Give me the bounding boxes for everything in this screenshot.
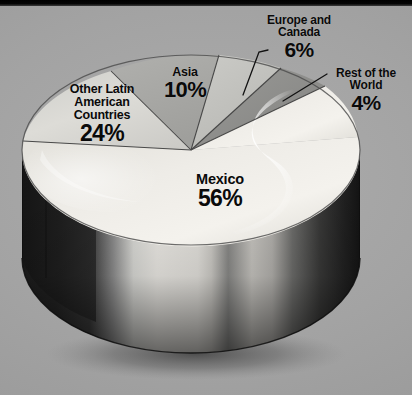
slice-label-other-latin-american-countries: Other Latin American Countries 24% — [47, 83, 157, 145]
slice-label-europe-percent: 6% — [249, 39, 349, 61]
top-black-band — [0, 0, 412, 6]
slice-label-europe-and-canada: Europe and Canada 6% — [249, 14, 349, 60]
slice-label-mexico-percent: 56% — [165, 187, 275, 211]
slice-label-other-latin-line1: Other Latin — [47, 83, 157, 96]
slice-label-asia-percent: 10% — [150, 79, 220, 102]
slice-label-other-latin-percent: 24% — [47, 122, 157, 146]
slice-label-other-latin-line2: American — [47, 96, 157, 109]
slice-label-rest-of-world-percent: 4% — [320, 92, 412, 114]
slice-label-rest-of-world-line2: World — [320, 79, 412, 91]
slice-label-asia: Asia 10% — [150, 66, 220, 102]
slice-label-mexico: Mexico 56% — [165, 172, 275, 211]
slice-label-europe-line2: Canada — [249, 26, 349, 38]
chart-canvas: Mexico 56% Other Latin American Countrie… — [0, 0, 412, 395]
slice-label-rest-of-the-world: Rest of the World 4% — [320, 67, 412, 113]
